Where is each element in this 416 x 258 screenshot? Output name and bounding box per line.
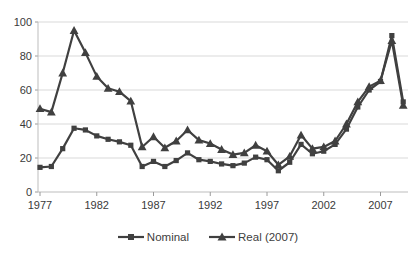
svg-text:0: 0	[26, 186, 32, 198]
svg-text:20: 20	[20, 152, 32, 164]
line-chart: 0204060801001977198219871992199720022007	[0, 0, 416, 216]
real-triangle-marker-icon	[209, 232, 235, 242]
svg-text:1992: 1992	[198, 199, 222, 211]
legend-label-nominal: Nominal	[147, 231, 189, 243]
svg-text:40: 40	[20, 118, 32, 130]
chart-legend: Nominal Real (2007)	[0, 231, 416, 243]
legend-item-nominal: Nominal	[118, 231, 189, 243]
svg-text:1987: 1987	[141, 199, 165, 211]
svg-text:1977: 1977	[28, 199, 52, 211]
svg-text:2002: 2002	[312, 199, 336, 211]
chart-panel: 0204060801001977198219871992199720022007…	[0, 0, 416, 258]
svg-text:1997: 1997	[255, 199, 279, 211]
nominal-square-marker-icon	[118, 232, 144, 242]
legend-item-real: Real (2007)	[209, 231, 298, 243]
svg-text:2007: 2007	[368, 199, 392, 211]
svg-text:1982: 1982	[85, 199, 109, 211]
svg-text:100: 100	[14, 16, 32, 28]
svg-text:80: 80	[20, 50, 32, 62]
legend-label-real: Real (2007)	[238, 231, 298, 243]
svg-text:60: 60	[20, 84, 32, 96]
